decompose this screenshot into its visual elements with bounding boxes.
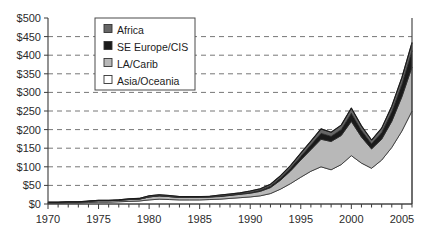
y-tick-label: $400 xyxy=(17,49,41,61)
x-tick-label: 1985 xyxy=(187,213,211,225)
x-tick-label: 1995 xyxy=(289,213,313,225)
x-axis-labels: 19701975198019851990199520002005 xyxy=(36,213,414,225)
legend-swatch-la-carib xyxy=(104,59,112,67)
x-tick-label: 1980 xyxy=(137,213,161,225)
legend-label-se-europe-cis: SE Europe/CIS xyxy=(117,41,188,53)
y-tick-label: $50 xyxy=(23,179,41,191)
legend-label-la-carib: LA/Carib xyxy=(117,58,158,70)
y-tick-label: $150 xyxy=(17,142,41,154)
x-tick-label: 1990 xyxy=(238,213,262,225)
x-tick-label: 2005 xyxy=(390,213,414,225)
y-tick-label: $250 xyxy=(17,105,41,117)
x-tick-label: 2000 xyxy=(339,213,363,225)
y-tick-label: $500 xyxy=(17,12,41,24)
x-tick-label: 1975 xyxy=(86,213,110,225)
y-tick-label: $350 xyxy=(17,68,41,80)
y-axis-labels: $0$50$100$150$200$250$300$350$400$450$50… xyxy=(17,12,41,210)
legend-label-africa: Africa xyxy=(117,24,144,36)
chart-legend: AfricaSE Europe/CISLA/CaribAsia/Oceania xyxy=(95,18,195,90)
stacked-area-chart: $0$50$100$150$200$250$300$350$400$450$50… xyxy=(0,0,434,236)
y-tick-label: $0 xyxy=(29,198,41,210)
x-tick-label: 1970 xyxy=(36,213,60,225)
y-tick-label: $450 xyxy=(17,31,41,43)
y-tick-label: $200 xyxy=(17,124,41,136)
y-axis-ticks xyxy=(44,18,48,204)
legend-swatch-africa xyxy=(104,25,112,33)
chart-container: $0$50$100$150$200$250$300$350$400$450$50… xyxy=(0,0,434,236)
x-axis-ticks xyxy=(48,204,412,209)
legend-label-asia-oceania: Asia/Oceania xyxy=(117,75,180,87)
legend-swatch-se-europe-cis xyxy=(104,42,112,50)
legend-swatch-asia-oceania xyxy=(104,76,112,84)
y-tick-label: $300 xyxy=(17,86,41,98)
y-tick-label: $100 xyxy=(17,161,41,173)
